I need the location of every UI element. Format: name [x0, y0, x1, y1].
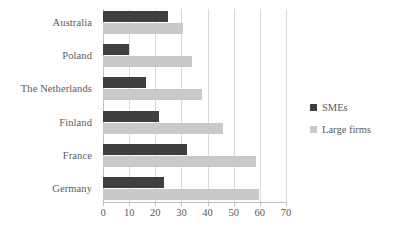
- bar-france-smes: [103, 144, 187, 155]
- category-label-finland: Finland: [0, 109, 99, 135]
- legend-label: SMEs: [322, 102, 348, 113]
- bar-finland-smes: [103, 111, 159, 122]
- x-tick-label-20: 20: [150, 207, 161, 218]
- x-tick-mark-0: [103, 202, 104, 206]
- x-tick-label-30: 30: [176, 207, 187, 218]
- bar-germany-large-firms: [103, 189, 259, 200]
- x-tick-mark-50: [234, 202, 235, 206]
- category-label-australia: Australia: [0, 9, 99, 35]
- x-tick-label-60: 60: [255, 207, 266, 218]
- bar-chart: · · AustraliaPolandThe NetherlandsFinlan…: [0, 0, 396, 235]
- bar-groups: [103, 9, 286, 202]
- bar-poland-large-firms: [103, 56, 192, 67]
- x-tick-label-0: 0: [100, 207, 105, 218]
- x-tick-mark-30: [181, 202, 182, 206]
- bar-germany-smes: [103, 177, 164, 188]
- chart-legend: SMEsLarge firms: [310, 102, 371, 135]
- bar-finland-large-firms: [103, 123, 223, 134]
- x-tick-label-40: 40: [202, 207, 213, 218]
- category-label-poland: Poland: [0, 42, 99, 68]
- category-label-france: France: [0, 143, 99, 169]
- x-tick-mark-10: [129, 202, 130, 206]
- bar-australia-smes: [103, 11, 168, 22]
- bar-australia-large-firms: [103, 23, 183, 34]
- x-tick-mark-40: [208, 202, 209, 206]
- category-label-germany: Germany: [0, 176, 99, 202]
- legend-item-smes[interactable]: SMEs: [310, 102, 371, 113]
- category-label-the-netherlands: The Netherlands: [0, 76, 99, 102]
- bar-group-the-netherlands: [103, 76, 286, 102]
- legend-swatch-icon-large-firms: [310, 126, 317, 133]
- legend-label: Large firms: [322, 124, 371, 135]
- bar-poland-smes: [103, 44, 129, 55]
- x-tick-label-70: 70: [281, 207, 292, 218]
- bar-group-poland: [103, 42, 286, 68]
- bar-group-france: [103, 143, 286, 169]
- x-axis-tick-labels: 010203040506070: [0, 207, 396, 223]
- gridline-70: [286, 9, 287, 202]
- x-tick-mark-70: [286, 202, 287, 206]
- x-tick-mark-20: [155, 202, 156, 206]
- bar-group-germany: [103, 176, 286, 202]
- x-tick-mark-60: [260, 202, 261, 206]
- category-axis-labels: AustraliaPolandThe NetherlandsFinlandFra…: [0, 9, 99, 202]
- bar-the-netherlands-smes: [103, 77, 146, 88]
- bar-the-netherlands-large-firms: [103, 89, 202, 100]
- plot-area: [103, 9, 286, 202]
- page-artifact-top-right: ·: [382, 3, 387, 8]
- legend-swatch-icon-smes: [310, 104, 317, 111]
- x-tick-label-50: 50: [228, 207, 239, 218]
- x-axis-line: [103, 202, 286, 203]
- bar-france-large-firms: [103, 156, 256, 167]
- x-tick-label-10: 10: [124, 207, 135, 218]
- bar-group-finland: [103, 109, 286, 135]
- bar-group-australia: [103, 9, 286, 35]
- legend-item-large-firms[interactable]: Large firms: [310, 124, 371, 135]
